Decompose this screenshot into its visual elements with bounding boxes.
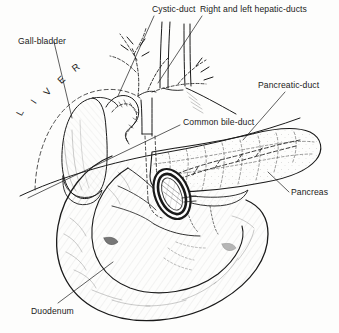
label-common-bile-duct: Common bile-duct [183,117,254,127]
hepatic-ducts-shape [110,22,236,114]
diagram-artwork [0,0,339,333]
label-pancreatic-duct: Pancreatic-duct [258,80,319,90]
label-cystic-duct: Cystic-duct [152,4,196,14]
label-gall-bladder: Gall-bladder [18,36,66,46]
label-hepatic-ducts: Right and left hepatic-ducts [200,4,307,14]
label-duodenum: Duodenum [31,306,74,316]
leader-cystic-duct [118,16,154,96]
anatomy-diagram: Cystic-duct Right and left hepatic-ducts… [0,0,339,333]
leader-hepatic-ducts [158,16,202,83]
cystic-duct-shape [106,96,139,144]
label-pancreas: Pancreas [291,187,328,197]
